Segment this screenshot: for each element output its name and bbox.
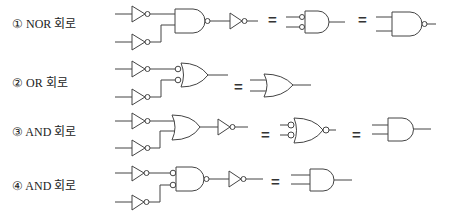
not-gate-icon	[115, 25, 175, 50]
or-gate-inverted-inputs-icon	[175, 63, 228, 87]
or-gate-icon	[172, 115, 218, 140]
not-gate-icon	[115, 6, 175, 22]
and-gate-icon	[372, 118, 431, 141]
not-gate-icon	[115, 185, 170, 210]
not-gate-icon	[115, 61, 175, 77]
row2-circuit	[115, 61, 311, 105]
not-gate-icon	[115, 80, 175, 105]
not-gate-icon	[229, 171, 263, 187]
not-gate-icon	[115, 113, 175, 129]
or-gate-icon	[250, 74, 311, 97]
logic-circuit-diagram	[0, 0, 453, 215]
and-gate-inverted-inputs-icon	[286, 11, 345, 33]
nand-gate-icon	[376, 12, 436, 36]
row1-circuit	[115, 6, 436, 50]
and-gate-icon	[291, 169, 352, 191]
not-gate-icon	[115, 131, 175, 156]
nand-gate-inverted-inputs-icon	[170, 167, 229, 191]
nor-gate-inverted-inputs-icon	[280, 118, 336, 143]
nand-gate-icon	[175, 9, 220, 33]
not-gate-icon	[220, 13, 258, 29]
not-gate-icon	[115, 166, 170, 181]
row4-circuit	[115, 166, 352, 210]
not-gate-icon	[218, 119, 248, 135]
row3-circuit	[115, 113, 431, 156]
